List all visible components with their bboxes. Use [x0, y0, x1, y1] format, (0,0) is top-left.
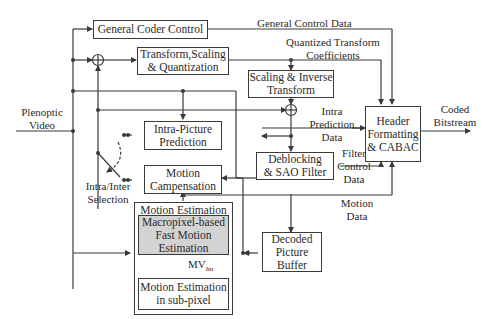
signal-label-line: Coefficients	[268, 49, 398, 62]
block-label: Campensation	[150, 180, 216, 193]
macropixel-fast-motion-estimation-block: Macropixel-based Fast Motion Estimation	[138, 215, 229, 255]
input-label-line: Video	[14, 119, 70, 132]
quantized-coefficients-label: Quantized Transform Coefficients	[268, 36, 398, 62]
block-label: Transform,Scaling	[140, 48, 226, 61]
block-label: General Coder Control	[98, 23, 203, 36]
block-label: Picture	[276, 246, 309, 259]
output-label-line: Coded	[427, 103, 483, 116]
signal-label-line: Data	[302, 131, 362, 144]
decoded-picture-buffer-block: Decoded Picture Buffer	[262, 232, 322, 272]
block-label: Formatting	[367, 128, 418, 141]
block-label: Prediction	[159, 136, 206, 149]
block-label: Intra-Picture	[154, 123, 212, 136]
mv-subscript: Int	[206, 265, 214, 273]
block-label: Deblocking	[268, 153, 322, 166]
intra-prediction-data-label: Intra Prediction Data	[302, 105, 362, 144]
block-label: Motion	[166, 167, 200, 180]
output-label-line: Bitstream	[427, 116, 483, 129]
block-label: Header	[376, 115, 409, 128]
transform-scaling-quantization-block: Transform,Scaling & Quantization	[137, 47, 229, 75]
block-label: & Quantization	[147, 61, 218, 74]
signal-label-line: Intra	[302, 105, 362, 118]
motion-data-label: Motion Data	[335, 197, 379, 223]
block-label: Scaling & Inverse	[249, 71, 332, 84]
block-label: Motion Estimation	[140, 281, 227, 294]
input-label: Plenoptic Video	[14, 106, 70, 132]
block-label: Buffer	[277, 259, 307, 272]
block-label: Fast Motion	[156, 229, 212, 242]
signal-label-line: Intra/Inter	[80, 180, 136, 193]
signal-label-line: Control	[333, 160, 375, 173]
block-label: in sub-pixel	[156, 294, 211, 307]
motion-compensation-block: Motion Campensation	[144, 165, 222, 194]
signal-label-line: Quantized Transform	[268, 36, 398, 49]
scaling-inverse-transform-block: Scaling & Inverse Transform	[248, 70, 334, 98]
signal-label-line: Filter	[333, 147, 375, 160]
block-label: Macropixel-based	[142, 216, 225, 229]
block-label: Estimation	[159, 242, 209, 255]
signal-label-line: Motion	[335, 197, 379, 210]
intra-inter-selection-label: Intra/Inter Selection	[80, 180, 136, 206]
general-coder-control-block: General Coder Control	[93, 20, 208, 39]
signal-label-line: Prediction	[302, 118, 362, 131]
signal-label-line: Data	[333, 173, 375, 186]
motion-estimation-subpixel-block: Motion Estimation in sub-pixel	[138, 278, 229, 310]
intra-picture-prediction-block: Intra-Picture Prediction	[144, 121, 222, 150]
signal-label-line: Data	[335, 210, 379, 223]
mv-int-label: MVInt	[188, 258, 214, 276]
input-label-line: Plenoptic	[14, 106, 70, 119]
mv-label: MV	[188, 258, 206, 270]
block-label: Decoded	[272, 233, 313, 246]
output-label: Coded Bitstream	[427, 103, 483, 129]
deblocking-sao-filter-block: Deblocking & SAO Filter	[256, 152, 334, 180]
filter-control-data-label: Filter Control Data	[333, 147, 375, 186]
signal-label-line: Selection	[80, 193, 136, 206]
block-label: Transform	[267, 84, 315, 97]
block-label: & SAO Filter	[264, 166, 327, 179]
general-control-data-label: General Control Data	[257, 17, 352, 30]
